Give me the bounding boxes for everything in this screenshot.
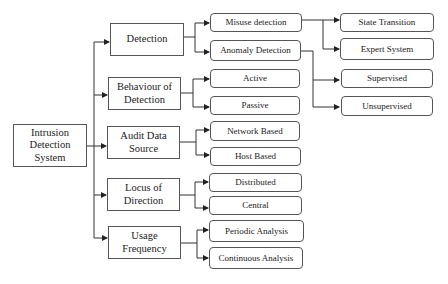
node-label: Active — [243, 73, 267, 84]
root-node-intrusion-detection-system: Intrusion Detection System — [13, 124, 87, 167]
node-label: Supervised — [367, 73, 407, 84]
node-label: Distributed — [235, 177, 276, 188]
node-label: Unsupervised — [362, 101, 412, 112]
node-misuse-detection: Misuse detection — [210, 13, 302, 32]
category-usage-frequency: Usage Frequency — [108, 226, 181, 259]
root-node-label: Intrusion Detection System — [30, 127, 71, 165]
node-label: State Transition — [359, 17, 416, 28]
node-label: Host Based — [235, 151, 276, 162]
node-continuous-analysis: Continuous Analysis — [209, 247, 303, 269]
category-label: Usage Frequency — [122, 230, 166, 255]
node-label: Central — [242, 200, 269, 211]
node-label: Continuous Analysis — [219, 253, 294, 264]
node-label: Anomaly Detection — [220, 45, 291, 56]
category-audit-data-source: Audit Data Source — [107, 126, 180, 159]
node-network-based: Network Based — [210, 121, 300, 141]
node-periodic-analysis: Periodic Analysis — [209, 220, 304, 242]
category-label: Audit Data Source — [120, 130, 166, 155]
node-expert-system: Expert System — [340, 38, 434, 60]
node-label: Periodic Analysis — [225, 226, 288, 237]
node-label: Misuse detection — [225, 17, 286, 28]
node-passive: Passive — [210, 96, 300, 115]
category-detection: Detection — [110, 23, 184, 56]
node-state-transition: State Transition — [340, 13, 434, 32]
node-distributed: Distributed — [209, 173, 302, 192]
node-unsupervised: Unsupervised — [341, 96, 433, 116]
node-central: Central — [209, 196, 302, 215]
category-label: Behaviour of Detection — [117, 81, 172, 106]
category-behaviour-of-detection: Behaviour of Detection — [108, 77, 181, 110]
node-label: Expert System — [361, 44, 414, 55]
category-locus-of-direction: Locus of Direction — [107, 178, 180, 211]
node-host-based: Host Based — [210, 147, 301, 166]
node-label: Network Based — [227, 126, 283, 137]
category-label: Locus of Direction — [124, 182, 164, 207]
category-label: Detection — [127, 33, 168, 46]
node-active: Active — [210, 69, 300, 88]
node-label: Passive — [242, 100, 269, 111]
node-supervised: Supervised — [341, 69, 433, 88]
node-anomaly-detection: Anomaly Detection — [210, 40, 301, 61]
